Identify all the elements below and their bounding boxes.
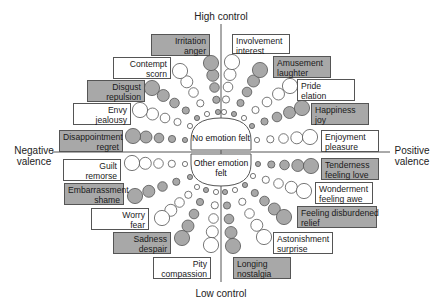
- intensity-circle-irritation-5[interactable]: [203, 55, 218, 70]
- intensity-circle-tenderness-2[interactable]: [268, 161, 275, 168]
- intensity-circle-enjoyment-3[interactable]: [279, 134, 289, 144]
- intensity-circle-pity-3[interactable]: [209, 214, 219, 224]
- intensity-circle-involvement-2[interactable]: [222, 96, 229, 103]
- intensity-circle-contempt-5[interactable]: [172, 63, 187, 78]
- intensity-circle-longing-1[interactable]: [222, 189, 227, 194]
- intensity-circle-pity-5[interactable]: [203, 237, 218, 252]
- intensity-circle-contempt-1[interactable]: [204, 111, 209, 116]
- intensity-circle-wonderment-3[interactable]: [274, 179, 284, 189]
- intensity-circle-disburdened-2[interactable]: [251, 189, 258, 196]
- intensity-circle-involvement-4[interactable]: [224, 69, 236, 81]
- emotion-label-text: Involvement: [236, 36, 286, 46]
- intensity-circle-pity-2[interactable]: [211, 202, 218, 209]
- emotion-box-enjoyment: Enjoymentpleasure: [321, 130, 379, 152]
- emotion-label-text: shame: [68, 195, 120, 205]
- intensity-circle-involvement-1[interactable]: [221, 109, 226, 114]
- intensity-circle-involvement-5[interactable]: [224, 54, 239, 69]
- intensity-circle-pride-2[interactable]: [252, 106, 259, 113]
- intensity-circle-embarrassment-3[interactable]: [158, 182, 168, 192]
- intensity-circle-disburdened-1[interactable]: [242, 182, 247, 187]
- intensity-circle-sadness-2[interactable]: [196, 198, 203, 205]
- intensity-circle-disgust-3[interactable]: [170, 98, 180, 108]
- intensity-circle-envy-5[interactable]: [132, 102, 147, 117]
- intensity-circle-tenderness-5[interactable]: [303, 158, 318, 173]
- intensity-circle-sadness-4[interactable]: [182, 220, 194, 232]
- intensity-circle-longing-2[interactable]: [223, 202, 230, 209]
- intensity-circle-worry-5[interactable]: [154, 210, 169, 225]
- intensity-circle-guilt-1[interactable]: [182, 161, 187, 166]
- intensity-circle-disappointment-3[interactable]: [154, 133, 164, 143]
- intensity-circle-envy-3[interactable]: [160, 113, 170, 123]
- intensity-circle-disappointment-4[interactable]: [140, 131, 152, 143]
- intensity-circle-embarrassment-5[interactable]: [127, 188, 142, 203]
- intensity-circle-disappointment-2[interactable]: [168, 135, 175, 142]
- intensity-circle-wonderment-4[interactable]: [285, 181, 297, 193]
- intensity-circle-sadness-1[interactable]: [203, 187, 208, 192]
- intensity-circle-irritation-3[interactable]: [210, 83, 220, 93]
- intensity-circle-worry-1[interactable]: [194, 184, 199, 189]
- axis-label-positive-valence: Positive valence: [388, 145, 436, 167]
- intensity-circle-happiness-3[interactable]: [272, 112, 282, 122]
- intensity-circle-longing-5[interactable]: [225, 238, 240, 253]
- intensity-circle-envy-2[interactable]: [174, 118, 181, 125]
- intensity-circle-pity-4[interactable]: [206, 226, 218, 238]
- intensity-circle-pride-5[interactable]: [282, 78, 297, 93]
- intensity-circle-disburdened-3[interactable]: [260, 196, 270, 206]
- intensity-circle-tenderness-4[interactable]: [292, 160, 304, 172]
- intensity-circle-disappointment-1[interactable]: [182, 137, 187, 142]
- intensity-circle-astonishment-3[interactable]: [245, 209, 255, 219]
- intensity-circle-disgust-1[interactable]: [194, 115, 199, 120]
- intensity-circle-wonderment-2[interactable]: [262, 176, 269, 183]
- intensity-circle-astonishment-4[interactable]: [251, 219, 263, 231]
- intensity-circle-worry-2[interactable]: [185, 191, 192, 198]
- intensity-circle-pride-3[interactable]: [262, 97, 272, 107]
- intensity-circle-disgust-5[interactable]: [144, 80, 159, 95]
- intensity-circle-disappointment-5[interactable]: [125, 128, 140, 143]
- intensity-circle-amusement-1[interactable]: [231, 111, 236, 116]
- intensity-circle-tenderness-3[interactable]: [280, 160, 290, 170]
- intensity-circle-enjoyment-2[interactable]: [267, 136, 274, 143]
- intensity-circle-guilt-3[interactable]: [154, 159, 164, 169]
- intensity-circle-happiness-1[interactable]: [249, 123, 254, 128]
- intensity-circle-involvement-3[interactable]: [223, 82, 233, 92]
- intensity-circle-sadness-3[interactable]: [189, 209, 199, 219]
- intensity-circle-contempt-2[interactable]: [197, 100, 204, 107]
- intensity-circle-contempt-3[interactable]: [189, 88, 199, 98]
- intensity-circle-happiness-2[interactable]: [261, 118, 268, 125]
- intensity-circle-guilt-4[interactable]: [139, 157, 151, 169]
- intensity-circle-embarrassment-2[interactable]: [173, 178, 180, 185]
- intensity-circle-irritation-4[interactable]: [207, 69, 219, 81]
- intensity-circle-sadness-5[interactable]: [174, 230, 189, 245]
- intensity-circle-longing-3[interactable]: [224, 214, 234, 224]
- intensity-circle-envy-4[interactable]: [147, 108, 159, 120]
- intensity-circle-amusement-5[interactable]: [252, 62, 267, 77]
- intensity-circle-guilt-5[interactable]: [124, 155, 139, 170]
- emotion-box-contempt: Contemptscorn: [113, 57, 171, 79]
- intensity-circle-disburdened-5[interactable]: [276, 209, 291, 224]
- emotion-label-text: feeling awe: [319, 194, 369, 204]
- intensity-circle-tenderness-1[interactable]: [255, 161, 260, 166]
- intensity-circle-envy-1[interactable]: [187, 123, 192, 128]
- intensity-circle-pity-1[interactable]: [213, 189, 218, 194]
- intensity-circle-embarrassment-4[interactable]: [143, 185, 155, 197]
- intensity-circle-disgust-2[interactable]: [182, 107, 189, 114]
- intensity-circle-astonishment-5[interactable]: [256, 229, 271, 244]
- intensity-circle-worry-3[interactable]: [175, 198, 185, 208]
- intensity-circle-happiness-4[interactable]: [284, 107, 296, 119]
- intensity-circle-enjoyment-1[interactable]: [254, 137, 259, 142]
- intensity-circle-amusement-2[interactable]: [237, 99, 244, 106]
- intensity-circle-happiness-5[interactable]: [294, 100, 309, 115]
- intensity-circle-wonderment-1[interactable]: [250, 173, 255, 178]
- intensity-circle-amusement-3[interactable]: [242, 87, 252, 97]
- intensity-circle-irritation-1[interactable]: [215, 109, 220, 114]
- intensity-circle-irritation-2[interactable]: [213, 96, 220, 103]
- intensity-circle-wonderment-5[interactable]: [296, 183, 311, 198]
- intensity-circle-astonishment-2[interactable]: [239, 198, 246, 205]
- intensity-circle-pride-4[interactable]: [273, 88, 285, 100]
- intensity-circle-enjoyment-4[interactable]: [291, 132, 303, 144]
- intensity-circle-astonishment-1[interactable]: [232, 187, 237, 192]
- intensity-circle-longing-4[interactable]: [225, 227, 237, 239]
- intensity-circle-enjoyment-5[interactable]: [302, 129, 317, 144]
- intensity-circle-pride-1[interactable]: [241, 115, 246, 120]
- intensity-circle-guilt-2[interactable]: [168, 160, 175, 167]
